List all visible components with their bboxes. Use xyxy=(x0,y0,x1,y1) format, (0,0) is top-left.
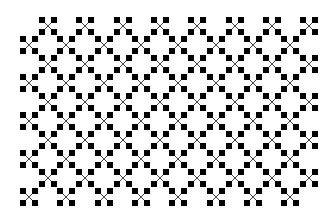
corner-square xyxy=(51,93,57,99)
corner-square xyxy=(95,74,101,80)
pattern-canvas xyxy=(0,0,334,218)
corner-square xyxy=(238,17,244,23)
corner-square xyxy=(95,188,101,194)
corner-square xyxy=(181,48,187,54)
corner-square xyxy=(76,29,82,35)
corner-square xyxy=(312,55,318,61)
corner-square xyxy=(200,143,206,149)
corner-square xyxy=(300,169,306,175)
corner-square xyxy=(57,36,63,42)
corner-square xyxy=(126,131,132,137)
corner-square xyxy=(69,74,75,80)
corner-square xyxy=(107,162,113,168)
corner-square xyxy=(169,200,175,206)
corner-square xyxy=(207,36,213,42)
corner-square xyxy=(281,74,287,80)
corner-square xyxy=(181,112,187,118)
corner-square xyxy=(281,36,287,42)
corner-square xyxy=(188,181,194,187)
corner-square xyxy=(244,86,250,92)
corner-square xyxy=(226,55,232,61)
corner-square xyxy=(238,169,244,175)
corner-square xyxy=(39,181,45,187)
corner-square xyxy=(151,55,157,61)
corner-square xyxy=(151,169,157,175)
corner-square xyxy=(144,124,150,130)
corner-square xyxy=(76,17,82,23)
corner-square xyxy=(256,162,262,168)
corner-square xyxy=(126,67,132,73)
corner-square xyxy=(69,188,75,194)
corner-square xyxy=(69,86,75,92)
corner-square xyxy=(88,55,94,61)
corner-square xyxy=(126,105,132,111)
corner-square xyxy=(256,112,262,118)
corner-square xyxy=(107,188,113,194)
corner-square xyxy=(293,188,299,194)
corner-square xyxy=(107,74,113,80)
corner-square xyxy=(39,67,45,73)
corner-square xyxy=(188,67,194,73)
corner-square xyxy=(144,48,150,54)
corner-square xyxy=(219,162,225,168)
corner-square xyxy=(238,93,244,99)
corner-square xyxy=(188,143,194,149)
corner-square xyxy=(219,124,225,130)
corner-square xyxy=(207,150,213,156)
corner-square xyxy=(132,124,138,130)
corner-square xyxy=(256,188,262,194)
corner-square xyxy=(151,181,157,187)
corner-square xyxy=(238,105,244,111)
corner-square xyxy=(256,124,262,130)
corner-square xyxy=(132,162,138,168)
corner-square xyxy=(144,36,150,42)
corner-square xyxy=(76,93,82,99)
corner-square xyxy=(169,162,175,168)
corner-square xyxy=(312,181,318,187)
corner-square xyxy=(132,74,138,80)
corner-square xyxy=(114,143,120,149)
corner-square xyxy=(126,181,132,187)
corner-square xyxy=(300,105,306,111)
corner-square xyxy=(219,74,225,80)
corner-square xyxy=(107,200,113,206)
corner-square xyxy=(76,55,82,61)
corner-square xyxy=(107,112,113,118)
corner-square xyxy=(114,131,120,137)
corner-square xyxy=(76,105,82,111)
corner-square xyxy=(163,143,169,149)
corner-square xyxy=(300,29,306,35)
corner-square xyxy=(263,105,269,111)
corner-square xyxy=(20,112,26,118)
corner-square xyxy=(188,169,194,175)
corner-square xyxy=(181,162,187,168)
corner-square xyxy=(281,150,287,156)
corner-square xyxy=(144,188,150,194)
corner-square xyxy=(263,181,269,187)
corner-square xyxy=(244,150,250,156)
corner-square xyxy=(293,150,299,156)
corner-square xyxy=(69,48,75,54)
corner-square xyxy=(88,143,94,149)
corner-square xyxy=(200,67,206,73)
corner-square xyxy=(207,162,213,168)
corner-square xyxy=(256,36,262,42)
corner-square xyxy=(238,55,244,61)
corner-square xyxy=(181,74,187,80)
corner-square xyxy=(244,124,250,130)
corner-square xyxy=(51,55,57,61)
corner-square xyxy=(132,150,138,156)
corner-square xyxy=(263,143,269,149)
corner-square xyxy=(281,188,287,194)
corner-square xyxy=(88,29,94,35)
corner-square xyxy=(51,131,57,137)
corner-square xyxy=(163,93,169,99)
corner-square xyxy=(256,74,262,80)
corner-square xyxy=(126,143,132,149)
corner-square xyxy=(20,124,26,130)
corner-square xyxy=(57,112,63,118)
corner-square xyxy=(151,131,157,137)
corner-square xyxy=(163,55,169,61)
corner-square xyxy=(88,105,94,111)
corner-square xyxy=(226,169,232,175)
